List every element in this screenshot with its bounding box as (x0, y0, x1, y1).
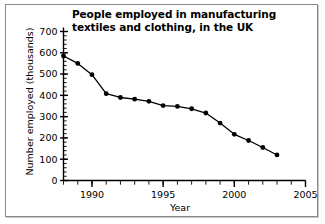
series-line (64, 56, 278, 155)
y-axis-tick-label: 600 (39, 47, 57, 58)
data-point-marker (147, 99, 152, 104)
data-point-marker (118, 95, 123, 100)
data-series-line (64, 56, 278, 155)
data-point-marker (218, 121, 223, 126)
y-axis: 0100200300400500600700 (39, 26, 68, 186)
data-point-marker (260, 145, 265, 150)
data-point-marker (132, 97, 137, 102)
x-axis-tick-label: 2000 (222, 189, 246, 200)
data-point-marker (90, 72, 95, 77)
chart-figure: People employed in manufacturing textile… (0, 0, 325, 224)
data-point-marker (75, 61, 80, 66)
y-axis-tick-label: 100 (39, 154, 57, 165)
x-axis-tick-label: 2005 (293, 189, 317, 200)
data-point-marker (161, 103, 166, 108)
x-axis: 1990199520002005 (64, 181, 318, 200)
data-point-marker (61, 54, 66, 59)
data-point-marker (175, 104, 180, 109)
data-point-marker (189, 106, 194, 111)
data-point-marker (246, 138, 251, 143)
y-axis-tick-label: 500 (39, 68, 57, 79)
y-axis-tick-label: 300 (39, 111, 57, 122)
data-point-marker (232, 132, 237, 137)
x-axis-tick-label: 1990 (80, 189, 104, 200)
data-point-marker (275, 153, 280, 158)
y-axis-tick-label: 400 (39, 90, 57, 101)
x-axis-tick-label: 1995 (151, 189, 175, 200)
plot-area: 0100200300400500600700 1990199520002005 (0, 0, 325, 224)
y-axis-tick-label: 0 (51, 175, 57, 186)
data-point-marker (203, 111, 208, 116)
data-point-marker (104, 91, 109, 96)
y-axis-tick-label: 700 (39, 26, 57, 37)
y-axis-tick-label: 200 (39, 132, 57, 143)
